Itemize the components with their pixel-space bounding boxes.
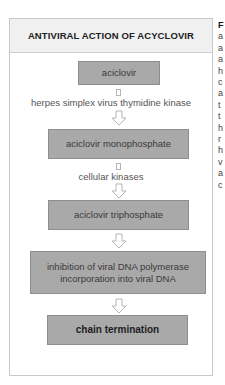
down-arrow-icon (111, 183, 127, 199)
text-fragment: h (218, 123, 224, 134)
text-fragment: v (218, 157, 224, 168)
adjacent-column-text-fragments: F a a a h c a t t h r h v a c (218, 20, 224, 191)
text-fragment: h (218, 145, 224, 156)
text-fragment: c (218, 77, 224, 88)
text-fragment: a (218, 43, 224, 54)
step-aciclovir-triphosphate: aciclovir triphosphate (48, 200, 189, 230)
step-aciclovir: aciclovir (78, 61, 160, 85)
down-arrow-icon (111, 110, 127, 126)
arrow-stem-icon (116, 163, 121, 170)
text-fragment: t (218, 111, 224, 122)
step-label: aciclovir monophosphate (66, 138, 171, 150)
step-aciclovir-monophosphate: aciclovir monophosphate (48, 129, 189, 159)
step-label: chain termination (76, 324, 159, 336)
diagram-frame: ANTIVIRAL ACTION OF ACYCLOVIR aciclovir … (9, 18, 213, 376)
text-fragment: a (218, 31, 224, 42)
step-chain-termination: chain termination (47, 315, 188, 345)
down-arrow-icon (111, 298, 127, 314)
text-fragment: h (218, 66, 224, 77)
text-fragment: t (218, 100, 224, 111)
text-fragment: F (218, 20, 224, 31)
step-label-line2: incorporation into viral DNA (60, 273, 176, 285)
step-label-line1: inhibition of viral DNA polymerase (47, 261, 189, 273)
text-fragment: c (218, 180, 224, 191)
text-fragment: r (218, 134, 224, 145)
step-label: aciclovir (102, 67, 136, 79)
arrow-stem-icon (116, 89, 121, 96)
text-fragment: a (218, 88, 224, 99)
step-label: aciclovir triphosphate (74, 209, 163, 221)
down-arrow-icon (111, 233, 127, 249)
enzyme-label-hsv-tk: herpes simplex virus thymidine kinase (10, 97, 212, 108)
text-fragment: a (218, 54, 224, 65)
diagram-title: ANTIVIRAL ACTION OF ACYCLOVIR (10, 19, 212, 53)
enzyme-label-cellular-kinases: cellular kinases (10, 171, 212, 182)
step-inhibition-dna-polymerase: inhibition of viral DNA polymerase incor… (30, 251, 206, 294)
text-fragment: a (218, 168, 224, 179)
